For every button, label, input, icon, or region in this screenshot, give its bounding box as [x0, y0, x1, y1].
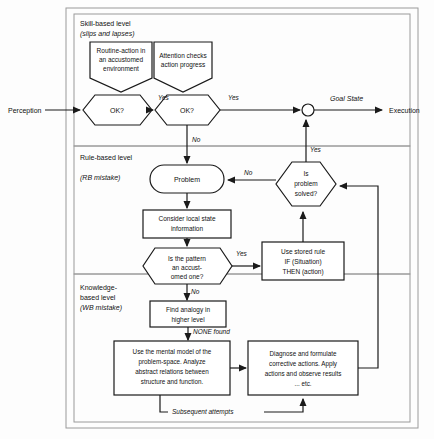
- flowchart-svg: Skill-based level (slips and lapses) Rul…: [0, 0, 434, 439]
- label-knowledge-based: Knowledge-: [80, 284, 118, 292]
- label-rule-based-sub: (RB mistake): [80, 174, 120, 182]
- node-find-analogy: [150, 301, 226, 327]
- consider-line1: Consider local state: [158, 215, 215, 222]
- solved-line2: problem: [294, 180, 317, 188]
- diagnose-line3: actions and observe results: [265, 370, 342, 377]
- ok2-label: OK?: [180, 107, 194, 114]
- pattern-line1: Is the pattern: [168, 255, 206, 263]
- routine-action-line2: an accustomed: [99, 56, 143, 63]
- solved-line1: Is: [303, 170, 309, 177]
- edge-label-yes1: Yes: [158, 94, 170, 101]
- solved-line3: solved?: [295, 190, 318, 197]
- diagnose-line2: corrective actions. Apply: [269, 360, 338, 368]
- junction-goal-state: [302, 104, 314, 116]
- edge-label-yes-solved: Yes: [310, 146, 322, 153]
- stored-rule-line2: IF (Situation): [284, 258, 321, 266]
- diagnose-line4: ... etc.: [294, 380, 311, 387]
- analogy-line2: higher level: [171, 316, 205, 324]
- attention-checks-line2: action progress: [161, 61, 206, 69]
- ok1-label: OK?: [110, 107, 124, 114]
- pattern-line2: an accust-: [172, 264, 202, 271]
- diagram-canvas: Skill-based level (slips and lapses) Rul…: [0, 0, 434, 439]
- stored-rule-line1: Use stored rule: [281, 248, 325, 255]
- edge-label-no-solved: No: [244, 169, 253, 176]
- pattern-line3: omed one?: [171, 273, 204, 280]
- routine-action-line1: Routine-action in: [97, 47, 146, 54]
- routine-action-line3: environment: [103, 65, 139, 72]
- edge-label-yes-pattern: Yes: [236, 250, 248, 257]
- diagnose-line1: Diagnose and formulate: [270, 350, 337, 358]
- label-skill-based-sub: (slips and lapses): [80, 30, 134, 38]
- edge-label-yes2: Yes: [228, 94, 240, 101]
- mental-model-line3: abstract relations between: [135, 368, 209, 375]
- edge-label-no-ok2: No: [192, 136, 201, 143]
- mental-model-line1: Use the mental model of the: [133, 348, 212, 355]
- consider-line2: information: [171, 225, 204, 232]
- edge-label-subsequent-attempts: Subsequent attempts: [172, 408, 234, 416]
- label-perception: Perception: [8, 107, 42, 115]
- label-knowledge-based-sub: (WB mistake): [80, 304, 122, 312]
- stored-rule-line3: THEN (action): [282, 268, 323, 276]
- label-goal-state: Goal State: [330, 95, 363, 102]
- edge-label-no-pattern: No: [191, 288, 200, 295]
- mental-model-line4: structure and function.: [141, 378, 204, 385]
- attention-checks-line1: Attention checks: [159, 52, 207, 59]
- label-knowledge-based2: based level: [80, 294, 116, 301]
- label-rule-based: Rule-based level: [80, 154, 133, 161]
- label-execution: Execution: [389, 107, 420, 114]
- edge-label-none-found: NONE found: [193, 328, 230, 335]
- analogy-line1: Find analogy in: [166, 306, 210, 314]
- problem-label: Problem: [174, 176, 200, 183]
- mental-model-line2: problem-space. Analyze: [138, 358, 206, 366]
- label-skill-based: Skill-based level: [80, 20, 131, 27]
